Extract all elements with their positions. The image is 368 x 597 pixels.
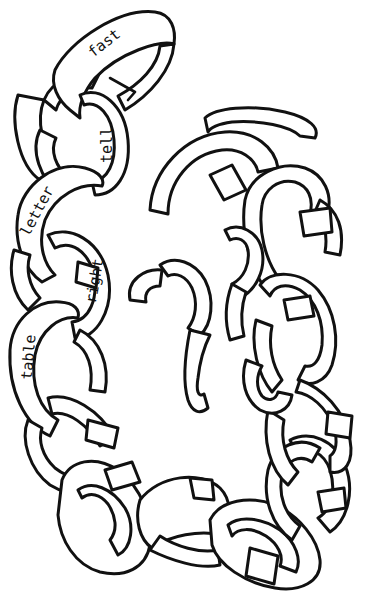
chain-link-right-top — [150, 108, 316, 214]
paper-chain-illustration — [0, 0, 368, 597]
chain-link-bottom-right — [210, 500, 320, 589]
link-word-tell: tell — [98, 127, 116, 163]
chain-link-right-middle — [254, 274, 336, 392]
chain-strip-left-dangling — [129, 260, 211, 411]
